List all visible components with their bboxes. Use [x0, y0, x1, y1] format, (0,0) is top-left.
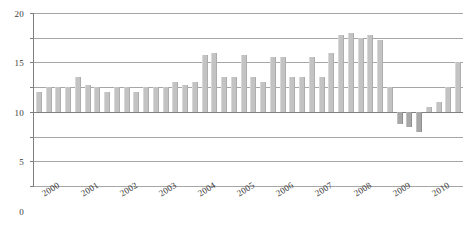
bar: [299, 77, 305, 112]
bar: [358, 38, 364, 112]
bar: [241, 55, 247, 112]
bar: [94, 87, 100, 112]
bar: [65, 87, 71, 112]
y-tick-label: 0: [19, 207, 24, 217]
bar: [172, 82, 178, 112]
bar: [309, 57, 315, 111]
y-tick-label: 15: [15, 58, 24, 68]
bar: [104, 92, 110, 112]
bar: [455, 62, 461, 111]
bar-series: [34, 13, 463, 186]
bar: [338, 35, 344, 112]
y-tick-label: 20: [15, 9, 24, 19]
bar: [75, 77, 81, 112]
bar: [397, 112, 403, 124]
bar: [231, 77, 237, 112]
bar: [260, 82, 266, 112]
bar: [367, 35, 373, 112]
bar: [377, 40, 383, 112]
bar: [163, 87, 169, 112]
bar: [319, 77, 325, 112]
bar: [250, 77, 256, 112]
bar: [387, 87, 393, 112]
x-axis-labels: 2000200120022003200420052006200720082009…: [33, 186, 462, 225]
y-tick-label: 5: [19, 157, 24, 167]
bar: [270, 57, 276, 111]
bar: [445, 87, 451, 112]
plot-area: 20151050-5-10-15: [33, 13, 462, 186]
bar: [182, 85, 188, 112]
bar: [114, 87, 120, 112]
bar: [36, 92, 42, 112]
bar: [406, 112, 412, 127]
bar: [426, 107, 432, 112]
bar: [192, 82, 198, 112]
bar: [153, 87, 159, 112]
bar: [124, 87, 130, 112]
bar: [348, 33, 354, 112]
bar: [328, 53, 334, 112]
bar: [289, 77, 295, 112]
bar: [202, 55, 208, 112]
bar: [221, 77, 227, 112]
bar: [416, 112, 422, 132]
bar: [85, 85, 91, 112]
bar: [280, 57, 286, 111]
bar: [46, 87, 52, 112]
bar: [55, 87, 61, 112]
bar: [143, 87, 149, 112]
bar-chart: 20151050-5-10-15 20002001200220032004200…: [0, 0, 468, 225]
bar: [133, 92, 139, 112]
bar: [211, 53, 217, 112]
y-tick-label: 10: [15, 108, 24, 118]
bar: [436, 102, 442, 112]
